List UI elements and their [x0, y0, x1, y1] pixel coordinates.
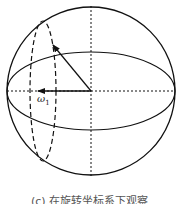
- sphere-diagram: [0, 0, 179, 204]
- omega-1-label: ω1: [37, 94, 50, 108]
- omega-symbol: ω: [37, 93, 45, 104]
- figure-caption: (c) 在旋转坐标系下观察: [0, 196, 179, 204]
- omega-subscript: 1: [45, 99, 49, 107]
